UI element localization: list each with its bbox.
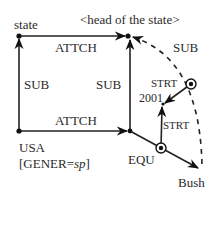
- label-2001: 2001: [139, 91, 163, 105]
- label-usa-gener: [GENER=sp]: [19, 156, 90, 171]
- label-sub-arc: SUB: [173, 40, 199, 55]
- semantic-graph-diagram: state <head of the state> USA [GENER=sp]…: [0, 0, 218, 250]
- edge-strt-lower: [161, 107, 162, 148]
- node-hub: [128, 129, 133, 134]
- label-usa: USA: [19, 140, 46, 155]
- label-equ: EQU: [128, 152, 155, 167]
- label-head: <head of the state>: [80, 12, 180, 27]
- label-state: state: [14, 17, 38, 32]
- node-state: [16, 33, 21, 38]
- label-strt-lower: STRT: [163, 119, 190, 131]
- label-strt-upper: STRT: [151, 77, 178, 89]
- label-sub-middle: SUB: [96, 77, 122, 92]
- node-sub-circle: [186, 79, 196, 89]
- label-attch-top: ATTCH: [55, 40, 97, 55]
- node-equ-circle: [156, 143, 166, 153]
- label-sub-left: SUB: [24, 77, 50, 92]
- label-bush: Bush: [178, 175, 205, 190]
- node-usa: [16, 128, 21, 133]
- node-head: [125, 33, 130, 38]
- label-attch-bottom: ATTCH: [55, 113, 97, 128]
